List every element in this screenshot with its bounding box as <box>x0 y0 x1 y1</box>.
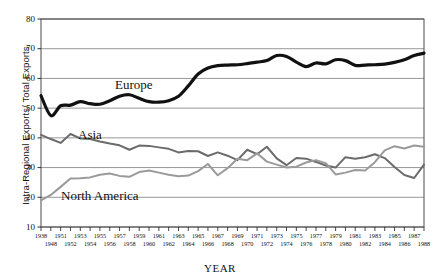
y-tick-label: 60 <box>13 73 35 83</box>
x-tick-label: 1987 <box>397 232 431 239</box>
y-tick-label: 40 <box>13 132 35 142</box>
series-label-asia: Asia <box>78 127 102 143</box>
y-tick-label: 50 <box>13 103 35 113</box>
y-tick-label: 20 <box>13 192 35 202</box>
x-tick-label: 1988 <box>407 240 440 247</box>
y-tick-label: 70 <box>13 43 35 53</box>
y-tick-label: 10 <box>13 222 35 232</box>
y-tick-label: 30 <box>13 162 35 172</box>
y-tick-label: 80 <box>13 14 35 24</box>
series-label-europe: Europe <box>115 77 153 93</box>
intra-regional-exports-line-chart: Intra-Regional Exports/ Total Exports YE… <box>0 0 440 278</box>
series-label-north-america: North America <box>61 188 139 204</box>
x-axis-title: YEAR <box>0 262 440 274</box>
